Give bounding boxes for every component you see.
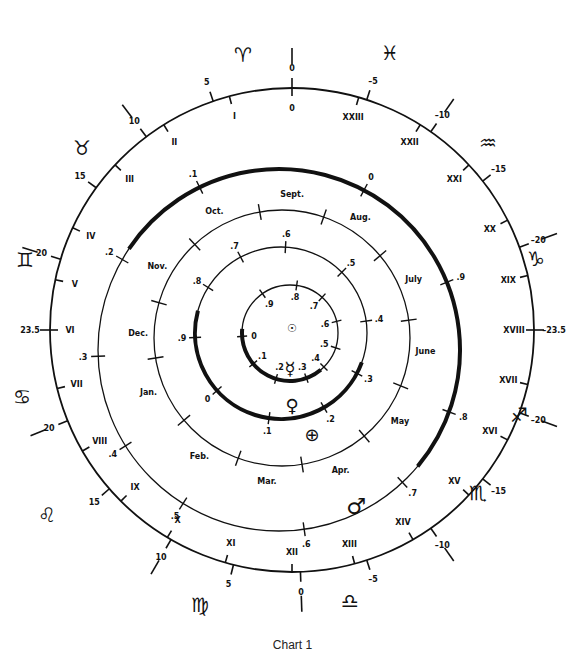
venus-tick	[360, 320, 372, 322]
hour-tick	[55, 280, 63, 282]
declination-label: 15	[89, 498, 101, 507]
mercury-label: .1	[258, 352, 267, 361]
hour-tick	[121, 495, 127, 501]
declination-label: –15	[491, 487, 507, 496]
declination-tick	[483, 175, 491, 181]
sign-divider	[122, 105, 132, 118]
hour-tick	[356, 97, 358, 105]
declination-label: 20	[36, 249, 48, 258]
declination-label: –15	[491, 165, 507, 174]
hour-tick	[463, 165, 469, 170]
mercury-tick	[260, 290, 266, 298]
hour-tick	[115, 165, 121, 170]
venus-label: .4	[375, 315, 384, 324]
venus-label: .6	[282, 230, 291, 239]
mars-heavy-arc	[129, 169, 460, 466]
aries-icon: ♈	[234, 43, 252, 67]
declination-label: –5	[368, 77, 378, 86]
hour-label: III	[125, 175, 134, 184]
hour-label: VII	[71, 380, 83, 389]
mars-tick	[120, 442, 132, 449]
mars-label: .2	[105, 248, 114, 257]
aquarius-icon: ♒	[479, 131, 497, 155]
hour-label: XXII	[400, 138, 418, 147]
hour-tick	[225, 555, 227, 563]
hour-tick	[409, 533, 413, 540]
mercury-label: .6	[321, 320, 330, 329]
declination-label: –5	[368, 575, 378, 584]
hour-tick	[520, 383, 528, 385]
sign-divider	[301, 596, 302, 612]
mars-label: .9	[456, 273, 465, 282]
declination-tick	[367, 560, 370, 570]
hour-tick	[500, 220, 507, 224]
chart-caption: Chart 1	[0, 638, 585, 652]
declination-tick	[210, 92, 213, 101]
mars-label: .8	[459, 413, 468, 422]
sign-divider	[445, 548, 454, 561]
hour-label: XII	[286, 548, 298, 557]
mars-tick	[179, 498, 186, 510]
declination-label: 5	[226, 580, 232, 589]
hour-label: IV	[86, 232, 96, 241]
declination-label: 15	[74, 172, 86, 181]
month-label: July	[404, 275, 422, 284]
month-label: Sept.	[280, 190, 304, 199]
sagittarius-icon: ♐	[510, 403, 528, 427]
mars-icon: ♂	[346, 494, 366, 519]
venus-tick	[238, 252, 244, 263]
month-label: June	[415, 347, 436, 356]
mars-label: .7	[408, 489, 417, 498]
venus-label: .8	[193, 277, 202, 286]
taurus-icon: ♉	[73, 136, 91, 160]
mars-label: .1	[189, 170, 198, 179]
venus-orbit: .6.5.4.3.2.10.9.8.7	[178, 230, 384, 436]
planet-symbols: ☉☿♀⊕♂	[284, 322, 365, 519]
declination-label: –20	[531, 416, 547, 425]
virgo-icon: ♍	[191, 593, 209, 617]
mercury-tick	[237, 336, 247, 337]
hour-tick	[353, 556, 355, 564]
declination-label: 10	[129, 117, 141, 126]
mercury-label: .5	[320, 340, 329, 349]
month-tick	[359, 430, 369, 442]
hour-tick	[229, 96, 231, 104]
cancer-icon: ♋	[13, 385, 31, 409]
capricorn-icon: ♑	[527, 247, 545, 271]
hour-tick	[73, 228, 80, 231]
venus-label: .2	[326, 415, 335, 424]
mars-orbit: .10.9.8.7.6.5.4.3.2	[79, 169, 468, 549]
mars-tick	[116, 256, 128, 263]
month-tick	[178, 415, 190, 425]
venus-tick	[285, 241, 286, 253]
mars-label: .4	[108, 450, 117, 459]
mercury-label: .7	[310, 302, 319, 311]
mercury-label: .2	[275, 363, 284, 372]
declination-tick	[431, 124, 437, 132]
venus-label: .1	[263, 427, 272, 436]
mercury-label: .8	[291, 293, 300, 302]
declination-tick	[51, 256, 61, 259]
month-label: Nov.	[147, 262, 167, 271]
hour-label: XXIII	[343, 113, 364, 122]
mars-tick	[303, 522, 305, 536]
declination-tick	[431, 528, 437, 536]
declination-tick	[166, 540, 171, 549]
month-label: Dec.	[128, 329, 148, 338]
hour-label: VIII	[92, 437, 107, 446]
month-label: Aug.	[350, 213, 371, 222]
declination-tick	[58, 421, 67, 425]
hour-tick	[167, 531, 171, 538]
hour-label: XIX	[501, 276, 517, 285]
declination-tick	[231, 565, 233, 575]
hour-label: XIII	[342, 540, 357, 549]
pisces-icon: ♓	[381, 41, 399, 65]
mars-label: .5	[171, 512, 180, 521]
venus-label: .3	[364, 375, 373, 384]
mercury-label: .3	[298, 363, 307, 372]
mercury-tick	[296, 281, 297, 291]
venus-label: .9	[178, 334, 187, 343]
declination-tick	[102, 489, 110, 496]
mars-label: .6	[302, 540, 311, 549]
hour-label: IX	[130, 483, 140, 492]
